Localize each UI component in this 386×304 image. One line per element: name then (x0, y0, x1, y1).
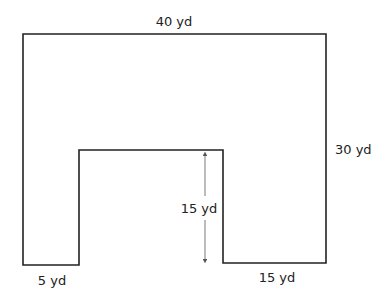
bottom-left-width-label: 5 yd (38, 273, 66, 288)
notch-height-label: 15 yd (181, 201, 218, 216)
right-height-label: 30 yd (335, 142, 372, 157)
bottom-right-width-label: 15 yd (259, 270, 296, 285)
top-width-label: 40 yd (156, 14, 193, 29)
composite-shape-diagram: 40 yd 30 yd 15 yd 5 yd 15 yd (0, 0, 386, 304)
shape-outline (23, 34, 326, 265)
